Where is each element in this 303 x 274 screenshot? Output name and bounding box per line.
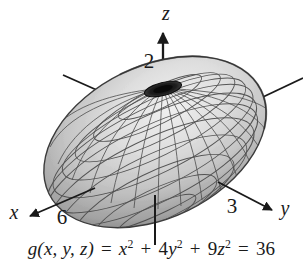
caption-term2-coefficient: 4 [158, 238, 168, 259]
z-intercept-label: 2 [144, 49, 155, 73]
caption-value: 36 [256, 238, 275, 259]
caption-equals-2: = [238, 238, 249, 259]
caption-term2-base: y [168, 238, 177, 259]
figure-caption: g(x, y, z) = x2 + 4y2 + 9z2 = 36 [0, 238, 303, 260]
caption-equals: = [101, 238, 112, 259]
caption-term3-base: z [217, 238, 225, 259]
x-axis-label: x [9, 201, 19, 223]
y-axis-label: y [279, 197, 290, 220]
y-intercept-label: 3 [227, 194, 238, 218]
caption-function-name: g [28, 238, 38, 259]
caption-term2-exponent: 2 [177, 238, 183, 251]
caption-term1-base: x [119, 238, 128, 259]
caption-plus-2: + [190, 238, 201, 259]
caption-plus-1: + [141, 238, 152, 259]
caption-arguments: (x, y, z) [37, 238, 94, 259]
caption-term1-exponent: 2 [128, 238, 134, 251]
ellipsoid-figure: x y z 6 3 2 [0, 0, 303, 274]
x-intercept-label: 6 [57, 205, 68, 229]
z-axis-label: z [161, 2, 170, 24]
caption-term3-coefficient: 9 [208, 238, 218, 259]
